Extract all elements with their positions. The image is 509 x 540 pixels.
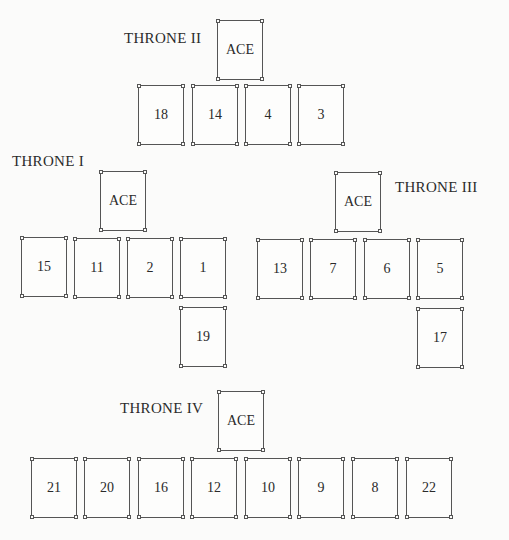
card-label: 17 (433, 330, 447, 346)
card-corner-mark (83, 457, 87, 461)
card: 1 (180, 238, 226, 298)
card-corner-mark (190, 515, 194, 519)
card-corner-mark (288, 515, 292, 519)
card-corner-mark (297, 84, 301, 88)
card-corner-mark (223, 364, 227, 368)
card: 8 (352, 458, 398, 518)
card-corner-mark (300, 238, 304, 242)
card-label: 7 (330, 261, 337, 277)
card-corner-mark (74, 515, 78, 519)
card-corner-mark (179, 295, 183, 299)
card-corner-mark (137, 142, 141, 146)
card-label: ACE (226, 42, 254, 58)
card-corner-mark (341, 84, 345, 88)
card-corner-mark (30, 457, 34, 461)
card-corner-mark (244, 84, 248, 88)
card-corner-mark (74, 457, 78, 461)
card-corner-mark (288, 84, 292, 88)
card-corner-mark (117, 237, 121, 241)
card-corner-mark (64, 294, 68, 298)
card-corner-mark (223, 306, 227, 310)
card-corner-mark (353, 296, 357, 300)
card: 2 (127, 238, 173, 298)
card-corner-mark (449, 457, 453, 461)
card-corner-mark (99, 170, 103, 174)
card-label: ACE (227, 413, 255, 429)
card-corner-mark (191, 142, 195, 146)
card-label: 16 (154, 480, 168, 496)
card-corner-mark (297, 142, 301, 146)
card-corner-mark (223, 295, 227, 299)
card-corner-mark (181, 515, 185, 519)
card-corner-mark (351, 515, 355, 519)
card-corner-mark (170, 295, 174, 299)
card-corner-mark (170, 237, 174, 241)
card-label: 12 (207, 480, 221, 496)
card-corner-mark (235, 84, 239, 88)
card-corner-mark (416, 296, 420, 300)
card-corner-mark (64, 236, 68, 240)
card-corner-mark (143, 228, 147, 232)
card-corner-mark (126, 295, 130, 299)
card-corner-mark (179, 306, 183, 310)
card: 5 (417, 239, 463, 299)
card-corner-mark (181, 84, 185, 88)
card-label: 13 (273, 261, 287, 277)
card-corner-mark (351, 457, 355, 461)
card-corner-mark (405, 457, 409, 461)
card-corner-mark (341, 142, 345, 146)
throne-iv-ace-card: ACE (218, 391, 264, 451)
card-corner-mark (378, 229, 382, 233)
card-corner-mark (341, 515, 345, 519)
card-label: 5 (437, 261, 444, 277)
card-corner-mark (261, 390, 265, 394)
card: 21 (31, 458, 77, 518)
card-corner-mark (256, 296, 260, 300)
card-corner-mark (407, 296, 411, 300)
card-corner-mark (244, 457, 248, 461)
card: 22 (406, 458, 452, 518)
card-corner-mark (73, 237, 77, 241)
card: 17 (417, 308, 463, 368)
card-corner-mark (137, 457, 141, 461)
card-corner-mark (190, 457, 194, 461)
card: 10 (245, 458, 291, 518)
card-corner-mark (20, 236, 24, 240)
card-corner-mark (73, 295, 77, 299)
card-label: 9 (318, 480, 325, 496)
card-corner-mark (288, 142, 292, 146)
card-corner-mark (460, 307, 464, 311)
card: 19 (180, 307, 226, 367)
card-corner-mark (260, 77, 264, 81)
card-corner-mark (363, 296, 367, 300)
card-label: 1 (200, 260, 207, 276)
card-corner-mark (179, 237, 183, 241)
card-corner-mark (244, 142, 248, 146)
card-corner-mark (181, 457, 185, 461)
card-corner-mark (449, 515, 453, 519)
card-corner-mark (117, 295, 121, 299)
card-corner-mark (234, 515, 238, 519)
card-corner-mark (223, 237, 227, 241)
card: 6 (364, 239, 410, 299)
card-corner-mark (261, 448, 265, 452)
card-corner-mark (20, 294, 24, 298)
card-corner-mark (30, 515, 34, 519)
card-corner-mark (341, 457, 345, 461)
card-corner-mark (395, 457, 399, 461)
card-label: 18 (154, 107, 168, 123)
card-label: 2 (147, 260, 154, 276)
card-label: 3 (318, 107, 325, 123)
card-corner-mark (288, 457, 292, 461)
card-label: 19 (196, 329, 210, 345)
card-corner-mark (460, 365, 464, 369)
card-corner-mark (179, 364, 183, 368)
card: 4 (245, 85, 291, 145)
card-corner-mark (137, 84, 141, 88)
card-label: 11 (90, 260, 103, 276)
throne-ii-ace-card: ACE (217, 20, 263, 80)
card-corner-mark (395, 515, 399, 519)
throne-iv-label: THRONE IV (120, 400, 203, 417)
card-corner-mark (297, 515, 301, 519)
card-corner-mark (127, 457, 131, 461)
